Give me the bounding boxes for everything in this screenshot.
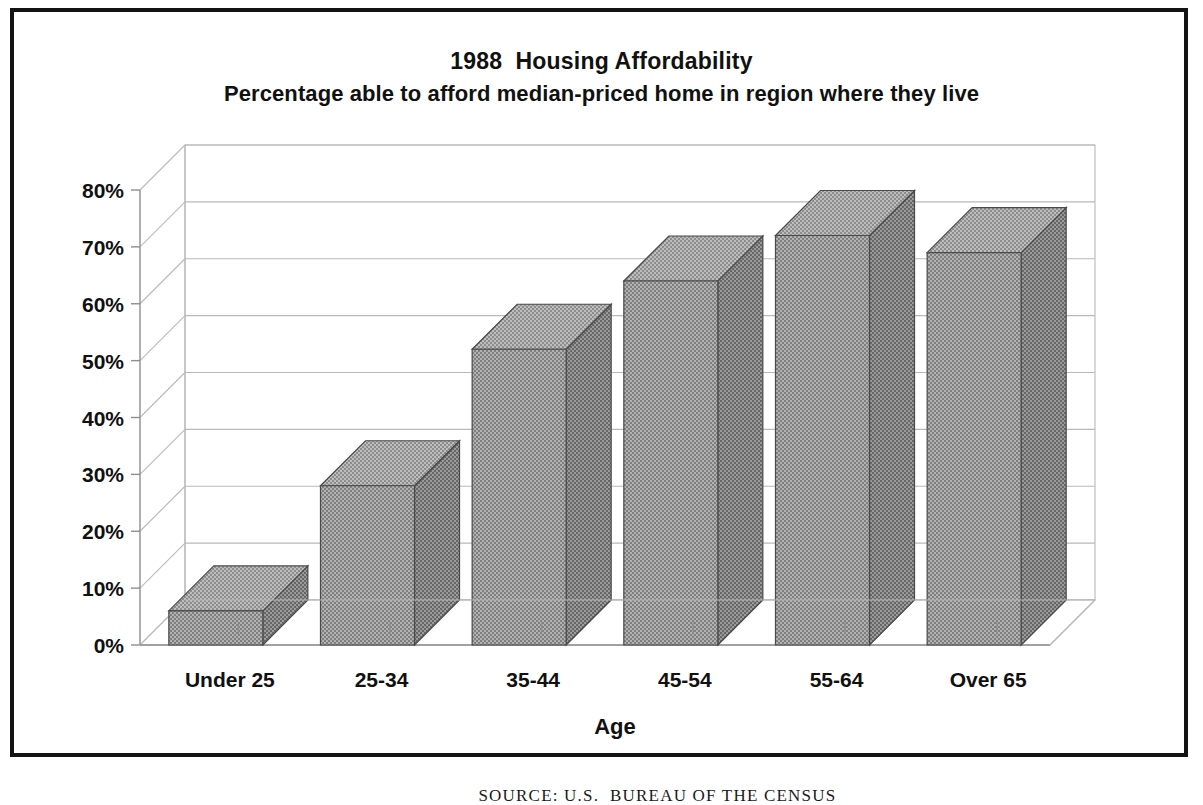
x-axis-title: Age (594, 714, 636, 739)
xtick-label: 35-44 (506, 668, 560, 691)
xtick-label: Over 65 (950, 668, 1027, 691)
xtick-label: Under 25 (185, 668, 275, 691)
ytick-label: 20% (82, 520, 124, 543)
ytick-label: 30% (82, 463, 124, 486)
gridline-depth (140, 259, 185, 304)
bar-2 (320, 441, 459, 645)
gridline-depth (140, 429, 185, 474)
xtick-label: 55-64 (810, 668, 864, 691)
source-note: SOURCE: U.S. BUREAU OF THE CENSUS (0, 766, 1203, 805)
bar-front-face (927, 253, 1021, 645)
ytick-label: 40% (82, 407, 124, 430)
bar-4 (624, 236, 763, 645)
gridline-depth (140, 373, 185, 418)
bar-3 (472, 304, 611, 645)
bar-5 (775, 191, 914, 646)
gridline-depth (140, 486, 185, 531)
ytick-label: 70% (82, 236, 124, 259)
xtick-label: 45-54 (658, 668, 712, 691)
bar-front-face (775, 236, 869, 646)
bar-front-face (320, 486, 414, 645)
xtick-label: 25-34 (355, 668, 409, 691)
ytick-label: 0% (94, 634, 125, 657)
ytick-label: 80% (82, 179, 124, 202)
bar-front-face (169, 611, 263, 645)
bar-6 (927, 208, 1066, 645)
ytick-label: 50% (82, 350, 124, 373)
bar-side-face (566, 304, 611, 645)
gridline-depth (140, 145, 185, 190)
gridline-depth (140, 202, 185, 247)
gridline-depth (140, 316, 185, 361)
bar-side-face (718, 236, 763, 645)
source-note-text: SOURCE: U.S. BUREAU OF THE CENSUS (478, 786, 836, 805)
ytick-label: 10% (82, 577, 124, 600)
bar-side-face (870, 191, 915, 646)
bar-front-face (624, 281, 718, 645)
bar-side-face (1021, 208, 1066, 645)
bar-front-face (472, 349, 566, 645)
ytick-label: 60% (82, 293, 124, 316)
gridline-depth (140, 543, 185, 588)
